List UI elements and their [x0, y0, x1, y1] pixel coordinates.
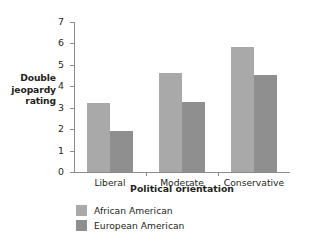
- y-axis-tick-label: 7: [58, 17, 64, 26]
- legend-item: European American: [76, 218, 184, 233]
- y-axis-line: [74, 22, 75, 173]
- y-axis-tick-label: 0: [58, 167, 64, 176]
- y-axis-tick: 0: [70, 172, 74, 173]
- legend-label: African American: [94, 206, 173, 216]
- y-axis-tick-label: 6: [58, 39, 64, 48]
- y-axis-tick-label: 3: [58, 103, 64, 112]
- x-axis-title: Political orientation: [74, 183, 290, 194]
- y-axis-tick-label: 5: [58, 60, 64, 69]
- plot-area: 01234567LiberalModerateConservative: [74, 22, 290, 172]
- y-axis-tick-label: 1: [58, 146, 64, 155]
- bar-liberal-african-american: [87, 103, 110, 172]
- legend-item: African American: [76, 203, 184, 218]
- legend-label: European American: [94, 221, 184, 231]
- y-axis-tick: 4: [70, 86, 74, 87]
- y-axis-tick: 1: [70, 151, 74, 152]
- bar-conservative-african-american: [231, 47, 254, 172]
- y-axis-tick: 5: [70, 65, 74, 66]
- y-axis-tick: 6: [70, 43, 74, 44]
- y-axis-tick-label: 4: [58, 82, 64, 91]
- legend: African AmericanEuropean American: [76, 203, 184, 233]
- bar-moderate-european-american: [182, 102, 205, 172]
- y-axis-tick: 7: [70, 22, 74, 23]
- bar-moderate-african-american: [159, 73, 182, 172]
- y-axis-tick-label: 2: [58, 124, 64, 133]
- bar-conservative-european-american: [254, 75, 277, 173]
- legend-swatch-icon: [76, 205, 87, 216]
- x-axis-line: [74, 172, 290, 173]
- legend-swatch-icon: [76, 220, 87, 231]
- y-axis-label: Double jeopardy rating: [4, 72, 56, 107]
- x-axis-tick: [218, 172, 219, 176]
- bar-liberal-european-american: [110, 131, 133, 172]
- y-axis-tick: 2: [70, 129, 74, 130]
- x-axis-tick: [146, 172, 147, 176]
- y-axis-label-line-3: rating: [4, 95, 56, 107]
- y-axis-label-line-2: jeopardy: [4, 84, 56, 96]
- y-axis-tick: 3: [70, 108, 74, 109]
- double-jeopardy-rating-bar-chart: Double jeopardy rating 01234567LiberalMo…: [0, 0, 318, 249]
- y-axis-label-line-1: Double: [4, 72, 56, 84]
